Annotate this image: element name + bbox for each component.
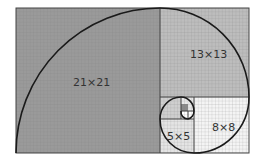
label-5x5: 5×5 bbox=[167, 130, 190, 143]
label-21x21: 21×21 bbox=[73, 76, 110, 89]
label-8x8: 8×8 bbox=[212, 121, 235, 134]
label-13x13: 13×13 bbox=[190, 48, 227, 61]
fibonacci-spiral-diagram: 21×21 13×13 8×8 5×5 bbox=[0, 0, 266, 166]
